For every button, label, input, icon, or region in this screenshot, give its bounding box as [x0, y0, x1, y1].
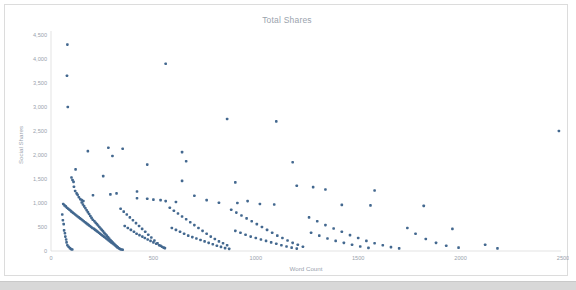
scatter-point — [135, 232, 138, 235]
y-tick-label: 4,500 — [33, 32, 47, 38]
scatter-point — [308, 216, 311, 219]
scatter-point — [171, 227, 174, 230]
scatter-point — [373, 242, 376, 245]
scatter-point — [296, 243, 299, 246]
scatter-point — [183, 232, 186, 235]
scatter-point — [158, 244, 161, 247]
y-tick-label: 1,500 — [33, 176, 47, 182]
scatter-point — [369, 204, 372, 207]
scatter-point — [138, 225, 141, 228]
scatter-point — [62, 219, 65, 222]
scatter-point — [205, 232, 208, 235]
scatter-point — [349, 234, 352, 237]
scatter-point — [390, 246, 393, 249]
scatter-point — [245, 217, 248, 220]
x-axis-tick-labels: 05001000150020002500 — [49, 255, 569, 261]
scatter-point — [109, 193, 112, 196]
scatter-point — [193, 224, 196, 227]
scatter-point — [228, 248, 231, 251]
y-tick-label: 1,000 — [33, 200, 47, 206]
scatter-point — [197, 227, 200, 230]
scatter-point — [312, 186, 315, 189]
chart-frame: Total Shares 05001,0001,5002,0002,5003,0… — [4, 4, 568, 276]
scatter-point — [351, 243, 354, 246]
scatter-point — [111, 155, 114, 158]
scatter-point — [398, 247, 401, 250]
scatter-point — [359, 245, 362, 248]
scatter-point — [255, 237, 258, 240]
scatter-point — [201, 230, 204, 233]
scatter-point — [76, 194, 79, 197]
scatter-point — [424, 238, 427, 241]
scatter-point — [164, 200, 167, 203]
scatter-point — [74, 190, 77, 193]
scatter-point — [334, 240, 337, 243]
scatter-point — [87, 150, 90, 153]
scatter-point — [291, 161, 294, 164]
scatter-point — [136, 190, 139, 193]
scatter-point — [138, 234, 141, 237]
scatter-point — [71, 248, 74, 251]
scatter-point — [146, 197, 149, 200]
scatter-point — [275, 243, 278, 246]
scatter-point — [295, 184, 298, 187]
scatter-point — [260, 238, 263, 241]
x-tick-label: 0 — [49, 255, 52, 261]
scatter-point — [343, 242, 346, 245]
x-axis-title: Word Count — [290, 265, 323, 272]
scatter-point — [65, 238, 68, 241]
scatter-point — [496, 247, 499, 250]
scatter-point — [224, 247, 227, 250]
scatter-point — [341, 231, 344, 234]
scatter-point — [367, 247, 370, 250]
scatter-point — [144, 231, 147, 234]
scatter-point — [240, 214, 243, 217]
scatter-point — [290, 246, 293, 249]
scatter-point — [234, 181, 237, 184]
scatter-point — [132, 219, 135, 222]
y-tick-label: 2,500 — [33, 128, 47, 134]
scatter-point — [152, 241, 155, 244]
scatter-point — [175, 229, 178, 232]
scatter-point — [143, 237, 146, 240]
scatter-point — [72, 181, 75, 184]
scatter-point — [119, 207, 122, 210]
scatter-point — [73, 185, 76, 188]
scatter-point — [239, 231, 242, 234]
scatter-point — [102, 175, 105, 178]
scatter-point — [230, 208, 233, 211]
chart-screenshot: Total Shares 05001,0001,5002,0002,5003,0… — [0, 0, 576, 290]
scatter-point — [129, 216, 132, 219]
scatter-point — [266, 229, 269, 232]
scatter-point — [451, 228, 454, 231]
scatter-point — [179, 231, 182, 234]
y-axis-title: Social Shares — [17, 126, 24, 164]
scatter-point — [214, 238, 217, 241]
scatter-point — [141, 228, 144, 231]
scatter-point — [316, 220, 319, 223]
scatter-point — [457, 246, 460, 249]
scatter-point — [181, 151, 184, 154]
scatter-point — [318, 234, 321, 237]
scatter-point — [127, 227, 130, 230]
y-axis-tick-labels: 05001,0001,5002,0002,5003,0003,5004,0004… — [33, 32, 47, 254]
scatter-point — [125, 213, 128, 216]
scatter-point — [222, 242, 225, 245]
scatter-point — [226, 244, 229, 247]
scatter-point — [195, 237, 198, 240]
scatter-point — [155, 243, 158, 246]
scatter-point — [226, 118, 229, 121]
scatter-point — [558, 130, 561, 133]
scatter-point — [357, 237, 360, 240]
scatter-point — [332, 227, 335, 230]
scatter-point — [189, 221, 192, 224]
scatter-point — [326, 237, 329, 240]
scatter-point — [92, 194, 95, 197]
scatter-point — [199, 239, 202, 242]
scatter-point — [130, 229, 133, 232]
scatter-point — [218, 240, 221, 243]
scatter-point — [185, 218, 188, 221]
scatter-point — [164, 63, 167, 66]
scatter-point — [484, 243, 487, 246]
scatter-point — [275, 120, 278, 123]
